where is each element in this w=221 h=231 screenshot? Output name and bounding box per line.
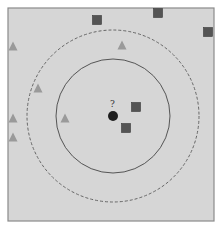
square-point — [93, 16, 102, 25]
square-point — [154, 9, 163, 18]
query-label: ? — [110, 99, 115, 109]
knn-diagram: ? — [0, 0, 221, 231]
square-point — [204, 28, 213, 37]
square-point — [132, 103, 141, 112]
square-point — [122, 124, 131, 133]
query-point — [108, 111, 118, 121]
